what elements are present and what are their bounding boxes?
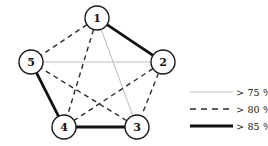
legend-label-gt85: > 85 % [236,121,268,132]
legend-entry-gt85: > 85 % [190,121,268,132]
graph-edge-1-4 [67,29,93,115]
graph-node-3[interactable]: 3 [125,115,149,139]
legend: > 75 %> 80 %> 85 % [190,87,268,132]
graph-edge-1-2 [107,25,153,56]
graph-node-5[interactable]: 5 [19,50,43,74]
node-label-2: 2 [159,56,167,69]
node-label-5: 5 [27,56,35,69]
graph-edge-1-3 [101,29,133,115]
edge-layer [36,25,158,127]
legend-label-gt80: > 80 % [236,104,268,115]
graph-edge-2-3 [141,73,158,116]
graph-edge-4-5 [36,73,58,117]
graph-edge-2-4 [74,69,153,121]
node-label-3: 3 [133,121,141,134]
graph-node-1[interactable]: 1 [85,6,109,30]
graph-canvas: 12345 > 75 %> 80 %> 85 % [0,0,268,146]
legend-entry-gt80: > 80 % [190,104,268,115]
legend-entry-gt75: > 75 % [190,87,268,98]
network-diagram-figure: 12345 > 75 %> 80 %> 85 % [0,0,268,146]
graph-node-4[interactable]: 4 [52,115,76,139]
node-layer: 12345 [19,6,175,139]
graph-node-2[interactable]: 2 [151,50,175,74]
graph-edge-1-5 [41,25,87,56]
node-label-4: 4 [60,121,68,134]
legend-label-gt75: > 75 % [236,87,268,98]
node-label-1: 1 [93,12,101,25]
